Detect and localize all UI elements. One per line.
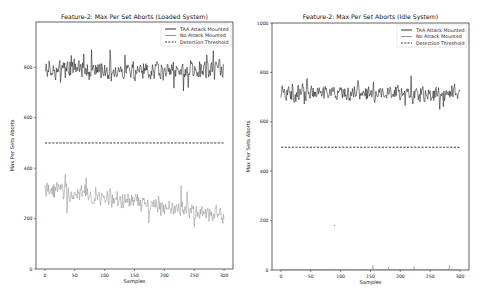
x-tick-label: 150 — [366, 274, 375, 279]
legend-entry: Detection Threshold — [416, 41, 464, 46]
y-tick-label: 0 — [266, 268, 269, 273]
y-tick-label: 600 — [260, 119, 269, 124]
x-tick-label: 50 — [308, 274, 314, 279]
series-line — [281, 265, 460, 270]
plot-area: 05010015020025030002004006008001000Sampl… — [0, 0, 484, 301]
x-tick-label: 0 — [279, 274, 282, 279]
series-line — [281, 76, 460, 110]
y-tick-label: 800 — [260, 70, 269, 75]
y-axis-label: Max Per Sets Aborts — [245, 120, 251, 172]
annotation-dot — [334, 225, 335, 226]
y-tick-label: 400 — [260, 169, 269, 174]
y-tick-label: 200 — [260, 218, 269, 223]
x-tick-label: 100 — [336, 274, 345, 279]
chart-idle-system: Feature-2: Max Per Set Aborts (Idle Syst… — [0, 0, 484, 301]
x-tick-label: 200 — [396, 274, 405, 279]
legend-entry: No Attack Mounted — [416, 34, 462, 39]
y-tick-label: 1000 — [257, 21, 269, 26]
legend: TAA Attack MountedNo Attack MountedDetec… — [397, 25, 467, 47]
x-tick-label: 250 — [426, 274, 435, 279]
axes-frame — [272, 23, 469, 270]
x-axis-label: Samples — [359, 279, 381, 286]
x-tick-label: 300 — [456, 274, 465, 279]
legend-entry: TAA Attack Mounted — [415, 28, 465, 33]
